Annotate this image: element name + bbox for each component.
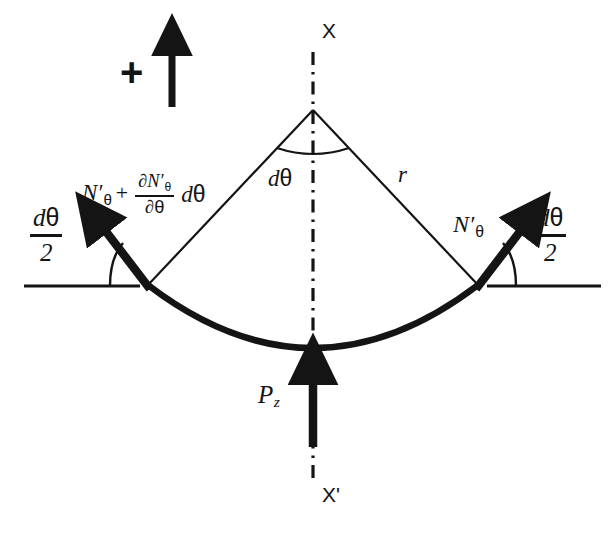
left-force-tail: dθ <box>181 183 205 206</box>
axis-bottom-label: X' <box>322 484 340 505</box>
left-force-base: N′θ <box>82 181 112 207</box>
left-half-angle-d: d <box>33 204 46 231</box>
tail-theta: θ <box>193 181 206 207</box>
numerator-partial: ∂ <box>138 171 147 191</box>
radius-label: r <box>398 163 407 186</box>
diagram-canvas <box>0 0 615 533</box>
denominator-theta: θ <box>154 196 164 217</box>
left-half-angle-fraction: dθ 2 <box>30 205 62 265</box>
fraction-denominator: ∂θ <box>142 197 167 217</box>
right-force-label: N′θ <box>453 212 484 240</box>
right-radius-line <box>313 110 478 285</box>
left-half-angle-theta: θ <box>46 203 60 231</box>
left-force-base-n: N <box>82 180 97 205</box>
shell-element-force-diagram: X X' + dθ r Pz N′θ N′θ+ ∂N′θ ∂θ dθ dθ 2 … <box>0 0 615 533</box>
left-force-operator: + <box>116 183 128 205</box>
right-half-angle-d: d <box>537 204 550 231</box>
right-half-angle-numerator: dθ <box>534 205 566 234</box>
left-half-angle-numerator: dθ <box>30 205 62 234</box>
tail-d: d <box>181 182 193 207</box>
left-force-base-sub: θ <box>103 191 111 208</box>
pz-symbol: P <box>258 381 273 408</box>
left-half-angle-denominator: 2 <box>37 237 56 266</box>
left-force-base-prime: ′ <box>97 180 102 205</box>
right-half-angle-label: dθ 2 <box>534 205 566 265</box>
n-symbol: N <box>453 211 469 237</box>
pz-force-label: Pz <box>258 382 280 410</box>
pz-subscript: z <box>274 393 280 410</box>
fraction-numerator: ∂N′θ <box>135 172 174 195</box>
axis-top-label: X <box>322 20 336 41</box>
numerator-prime: ′ <box>160 171 164 191</box>
n-subscript-theta: θ <box>475 223 484 240</box>
apex-angle-d: d <box>268 166 280 191</box>
apex-angle-label: dθ <box>268 167 292 190</box>
apex-angle-theta: θ <box>280 165 293 191</box>
right-half-angle-fraction: dθ 2 <box>534 205 566 265</box>
right-half-angle-denominator: 2 <box>541 237 560 266</box>
numerator-sub-theta: θ <box>165 180 172 194</box>
left-force-fraction: ∂N′θ ∂θ <box>135 172 174 216</box>
numerator-n: N <box>147 171 159 191</box>
sign-convention-plus-label: + <box>120 52 143 92</box>
right-half-angle-theta: θ <box>550 203 564 231</box>
denominator-partial: ∂ <box>145 197 154 217</box>
left-force-arrow <box>101 225 150 289</box>
left-half-angle-label: dθ 2 <box>30 205 62 265</box>
n-prime: ′ <box>469 211 474 237</box>
left-force-label: N′θ+ ∂N′θ ∂θ dθ <box>82 172 206 216</box>
